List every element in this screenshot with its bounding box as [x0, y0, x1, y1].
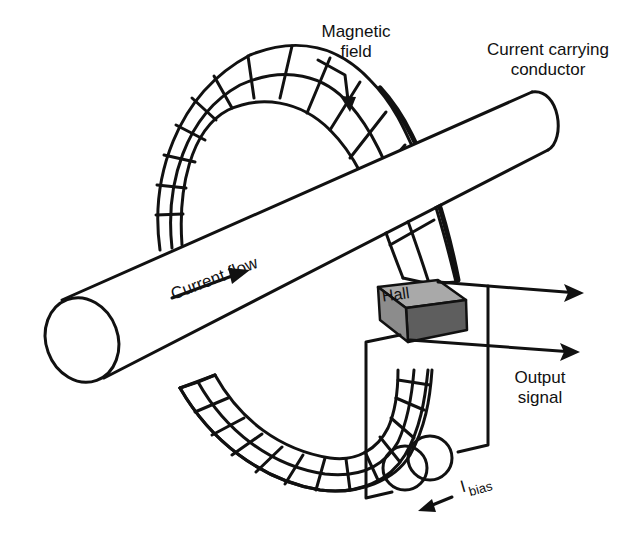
conductor-label-line1: Current carrying — [468, 40, 628, 60]
conductor-label-line2: conductor — [468, 60, 628, 80]
hall-front-face — [406, 300, 467, 342]
output-signal-label-line1: Output — [502, 368, 578, 388]
output-signal-label: Output signal — [502, 368, 578, 408]
magnetic-core-front — [180, 370, 432, 491]
hall-sensor-diagram: Magnetic field Current carrying conducto… — [0, 0, 644, 537]
output-signal-label-line2: signal — [502, 388, 578, 408]
magnetic-field-label-line1: Magnetic — [300, 22, 412, 42]
conductor-cylinder — [33, 92, 558, 393]
magnetic-field-label: Magnetic field — [300, 22, 412, 62]
magnetic-field-label-line2: field — [300, 42, 412, 62]
bias-source-circle-right — [408, 436, 452, 480]
field-arrow — [318, 60, 348, 100]
conductor-label: Current carrying conductor — [468, 40, 628, 80]
ibias-arrow-head — [418, 499, 436, 512]
hall-label: Hall — [381, 283, 411, 307]
diagram-drawing — [0, 0, 644, 537]
